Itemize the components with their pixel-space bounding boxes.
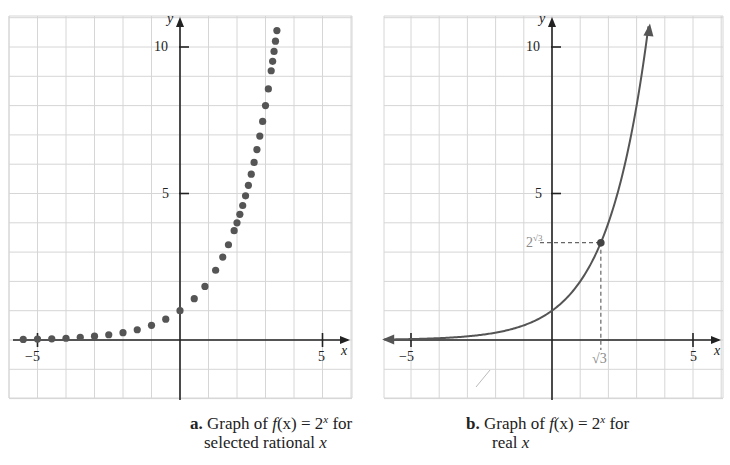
annotated-point xyxy=(597,239,605,247)
curve-arrow-up-icon xyxy=(643,23,653,36)
caption-b: b. Graph of f(x) = 2x for real x xyxy=(466,414,726,452)
caption-a-line1: a. Graph of f(x) = 2x for xyxy=(190,414,450,433)
chart-b-tick-y5: 5 xyxy=(535,187,542,201)
chart-b-tick-x5: 5 xyxy=(690,350,697,364)
chart-b-annotation-y-label: 2√3 xyxy=(526,231,542,250)
annotation-y-base: 2 xyxy=(526,235,533,250)
caption-b-post: for xyxy=(605,414,629,433)
caption-a-text: Graph of xyxy=(203,414,272,433)
stray-mark xyxy=(476,370,490,387)
grid xyxy=(384,16,723,399)
caption-b-line2-var: x xyxy=(522,433,530,452)
chart-b-tick-xneg5: −5 xyxy=(399,350,414,364)
caption-a-line2-text: selected rational xyxy=(204,433,319,452)
chart-b-y-axis-label: y xyxy=(539,12,545,26)
caption-a-mid: (x) = 2 xyxy=(277,414,323,433)
caption-b-letter: b. xyxy=(466,414,480,433)
caption-b-line1: b. Graph of f(x) = 2x for xyxy=(466,414,726,433)
caption-b-text: Graph of xyxy=(480,414,549,433)
caption-b-mid: (x) = 2 xyxy=(554,414,600,433)
caption-a-line2-var: x xyxy=(319,433,327,452)
caption-b-line2-text: real xyxy=(492,433,522,452)
annotation-y-exponent: √3 xyxy=(533,233,542,243)
caption-a-post: for xyxy=(328,414,352,433)
chart-b-annotation-x-label: √3 xyxy=(592,352,607,366)
chart-b-x-axis-label: x xyxy=(714,344,720,358)
chart-b-plot xyxy=(0,0,730,400)
axes xyxy=(388,17,721,400)
caption-a-letter: a. xyxy=(190,414,203,433)
chart-panel-b: y x 10 5 −5 5 √3 2√3 xyxy=(0,0,730,400)
caption-b-line2: real x xyxy=(466,433,726,452)
chart-b-tick-y10: 10 xyxy=(526,40,540,54)
caption-a: a. Graph of f(x) = 2x for selected ratio… xyxy=(190,414,450,452)
caption-a-line2: selected rational x xyxy=(190,433,450,452)
